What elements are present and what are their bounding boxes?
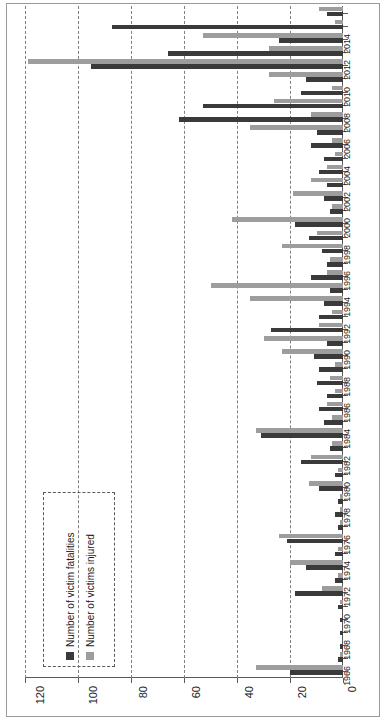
bar-fatalities-1974 [306,565,343,570]
bar-fatalities-2008 [179,117,343,122]
bar-injured-1998 [282,244,343,249]
bar-fatalities-1986 [319,407,343,412]
bar-injured-2014 [203,33,343,38]
bar-group-1994 [25,296,343,309]
bar-fatalities-1997 [327,262,343,267]
bar-fatalities-2011 [306,77,343,82]
year-label-1968: 1968 [342,640,352,660]
legend-label-fatal: Number of victim fatalities [65,533,76,647]
year-label-1980: 1980 [342,482,352,502]
year-label-1972: 1972 [342,588,352,608]
bar-fatalities-1996 [311,275,343,280]
year-label-2008: 2008 [342,113,352,133]
bar-injured-2008 [311,112,343,117]
year-label-1988: 1988 [342,377,352,397]
bar-injured-1966 [256,665,343,670]
bar-group-1981 [25,467,343,480]
y-tick-2015 [343,26,348,27]
bar-fatalities-1976 [287,539,343,544]
bar-fatalities-2001 [330,209,343,214]
bar-group-1998 [25,243,343,256]
bar-fatalities-2015 [112,25,343,30]
bar-group-2011 [25,72,343,85]
bar-group-1983 [25,441,343,454]
year-label-1990: 1990 [342,350,352,370]
legend-item-fatal[interactable]: Number of victim fatalities [65,493,76,660]
bar-injured-1990 [282,349,343,354]
bar-fatalities-1994 [324,301,343,306]
bar-fatalities-1966 [290,670,343,675]
bar-group-2012 [25,59,343,72]
year-label-1966: 1966 [342,667,352,687]
bar-fatalities-2012 [91,64,343,69]
bar-fatalities-1991 [327,341,343,346]
bar-injured-2012 [28,59,343,64]
bar-fatalities-1995 [330,288,343,293]
bar-group-1990 [25,349,343,362]
x-tick-label-60: 60 [190,686,202,698]
bar-fatalities-2016 [327,12,343,17]
x-tick-80 [131,678,132,683]
bar-injured-2002 [293,191,343,196]
year-label-1996: 1996 [342,271,352,291]
legend-swatch-fatal-icon [66,652,74,660]
bar-fatalities-1972 [295,591,343,596]
x-tick-label-40: 40 [243,686,255,698]
bar-injured-1984 [256,428,343,433]
x-tick-label-20: 20 [296,686,308,698]
bar-group-2001 [25,204,343,217]
bar-fatalities-2005 [324,157,343,162]
year-label-1998: 1998 [342,245,352,265]
bar-fatalities-2013 [168,51,343,56]
legend-swatch-injured-icon [86,652,94,660]
bar-group-1991 [25,335,343,348]
bar-fatalities-1993 [319,315,343,320]
year-label-2006: 2006 [342,140,352,160]
bar-fatalities-2004 [319,170,343,175]
bar-injured-2016 [319,7,343,12]
year-label-1978: 1978 [342,508,352,528]
bar-injured-1992 [319,323,343,328]
bar-fatalities-1990 [314,354,343,359]
bar-fatalities-1985 [324,420,343,425]
bar-injured-1995 [211,283,344,288]
legend-item-injured[interactable]: Number of victims injured [85,493,96,660]
bar-group-2000 [25,217,343,230]
year-label-1986: 1986 [342,403,352,423]
year-label-2010: 2010 [342,87,352,107]
bar-fatalities-1998 [322,249,343,254]
year-label-2000: 2000 [342,219,352,239]
bar-group-1997 [25,256,343,269]
bar-group-2013 [25,46,343,59]
bar-injured-1982 [311,455,343,460]
bar-group-2004 [25,164,343,177]
bar-injured-2003 [311,178,343,183]
bar-group-2016 [25,6,343,19]
bar-fatalities-2000 [295,222,343,227]
bar-group-1987 [25,388,343,401]
bar-fatalities-1992 [271,328,343,333]
bar-group-2006 [25,138,343,151]
bar-group-2003 [25,177,343,190]
bar-group-1993 [25,309,343,322]
bar-fatalities-1984 [261,433,343,438]
bar-group-2005 [25,151,343,164]
x-tick-label-80: 80 [137,686,149,698]
x-tick-label-0: 0 [346,686,358,692]
bar-group-2007 [25,125,343,138]
bar-fatalities-2003 [327,183,343,188]
bar-fatalities-1987 [327,394,343,399]
bar-group-1986 [25,401,343,414]
bar-group-1988 [25,375,343,388]
bar-injured-1974 [290,560,343,565]
bar-group-2008 [25,111,343,124]
x-tick-20 [290,678,291,683]
bar-injured-2009 [274,99,343,104]
bar-injured-2013 [269,46,343,51]
bar-group-2010 [25,85,343,98]
bar-injured-2004 [327,165,343,170]
bar-injured-1976 [279,534,343,539]
bar-injured-1972 [322,586,343,591]
bar-group-1989 [25,362,343,375]
bar-group-1995 [25,283,343,296]
